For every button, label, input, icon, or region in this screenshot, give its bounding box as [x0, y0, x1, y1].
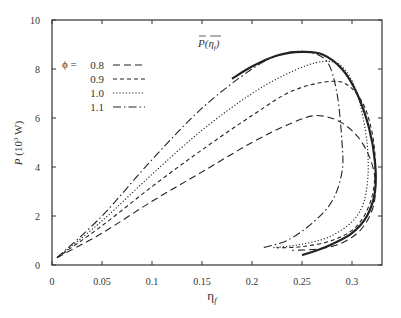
curve-phi-0-8 — [57, 116, 376, 258]
x-tick-label: 0.25 — [293, 276, 311, 287]
y-axis-ticks: 0246810 — [30, 15, 382, 271]
data-curves — [57, 51, 376, 257]
curve-envelope — [232, 52, 376, 255]
curve-phi-0-9 — [57, 81, 375, 257]
x-tick-label: 0.2 — [246, 276, 259, 287]
x-tick-label: 0 — [50, 276, 55, 287]
x-tick-label: 0.15 — [193, 276, 211, 287]
legend: ϕ =0.80.91.01.1 — [62, 58, 145, 113]
y-tick-label: 10 — [30, 15, 40, 26]
x-tick-label: 0.1 — [146, 276, 159, 287]
y-tick-label: 6 — [35, 113, 40, 124]
plot-frame — [52, 20, 382, 265]
y-axis-label: P (103 W) — [12, 121, 25, 167]
legend-label: 0.9 — [90, 73, 104, 85]
x-axis-label: ηf — [207, 288, 218, 305]
y-tick-label: 8 — [35, 64, 40, 75]
legend-label: 1.1 — [90, 101, 104, 113]
legend-label: 0.8 — [90, 59, 104, 71]
y-tick-label: 4 — [35, 162, 40, 173]
legend-label: 1.0 — [90, 87, 104, 99]
x-tick-label: 0.05 — [93, 276, 111, 287]
y-tick-label: 2 — [35, 211, 40, 222]
axes-box — [52, 20, 382, 265]
chart: 00.050.10.150.20.250.3 0246810 ϕ =0.80.9… — [0, 0, 401, 318]
y-tick-label: 0 — [35, 260, 40, 271]
x-tick-label: 0.3 — [346, 276, 359, 287]
envelope-annotation: P(ηf) — [197, 37, 220, 52]
legend-title: ϕ = — [62, 58, 77, 70]
